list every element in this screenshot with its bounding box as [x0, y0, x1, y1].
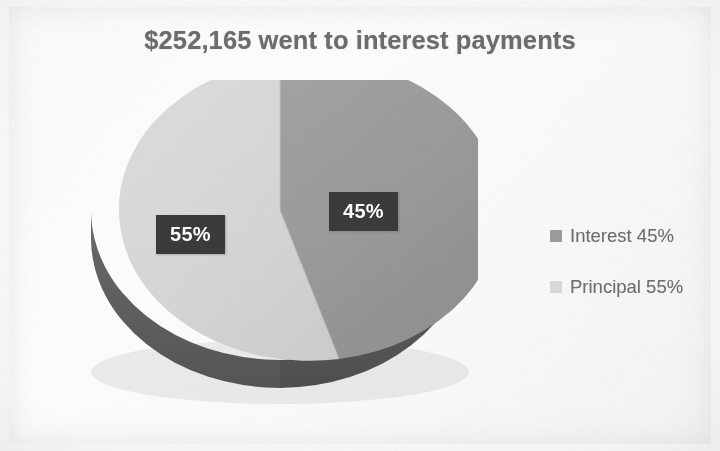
legend-item-principal: Principal 55%: [550, 273, 715, 301]
chart-legend: Interest 45% Principal 55%: [550, 222, 715, 324]
chart-title: $252,165 went to interest payments: [0, 26, 720, 55]
photographed-chart: $252,165 went to interest payments: [0, 0, 720, 451]
legend-swatch-principal: [550, 281, 562, 293]
data-label-interest: 45%: [329, 192, 398, 231]
legend-label-principal: Principal 55%: [570, 276, 683, 298]
data-label-principal: 55%: [156, 215, 225, 254]
legend-label-interest: Interest 45%: [570, 225, 674, 247]
legend-item-interest: Interest 45%: [550, 222, 715, 250]
legend-swatch-interest: [550, 230, 562, 242]
pie-chart: 45% 55%: [86, 80, 478, 410]
pie-chart-svg: [86, 80, 478, 410]
